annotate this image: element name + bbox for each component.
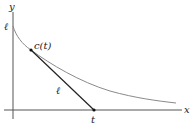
tractrix-diagram: y x ℓ c(t) ℓ t <box>0 0 191 127</box>
tractrix-curve <box>13 26 176 103</box>
segment-length-label: ℓ <box>56 85 60 96</box>
tangent-segment <box>31 50 94 110</box>
point-c-t-label: c(t) <box>34 40 52 51</box>
x-axis-label: x <box>184 104 190 115</box>
point-t <box>92 108 95 111</box>
point-c-t <box>29 48 32 51</box>
y-axis-label: y <box>8 1 15 12</box>
x-point-label: t <box>91 114 96 125</box>
y-intercept-label: ℓ <box>4 21 8 32</box>
